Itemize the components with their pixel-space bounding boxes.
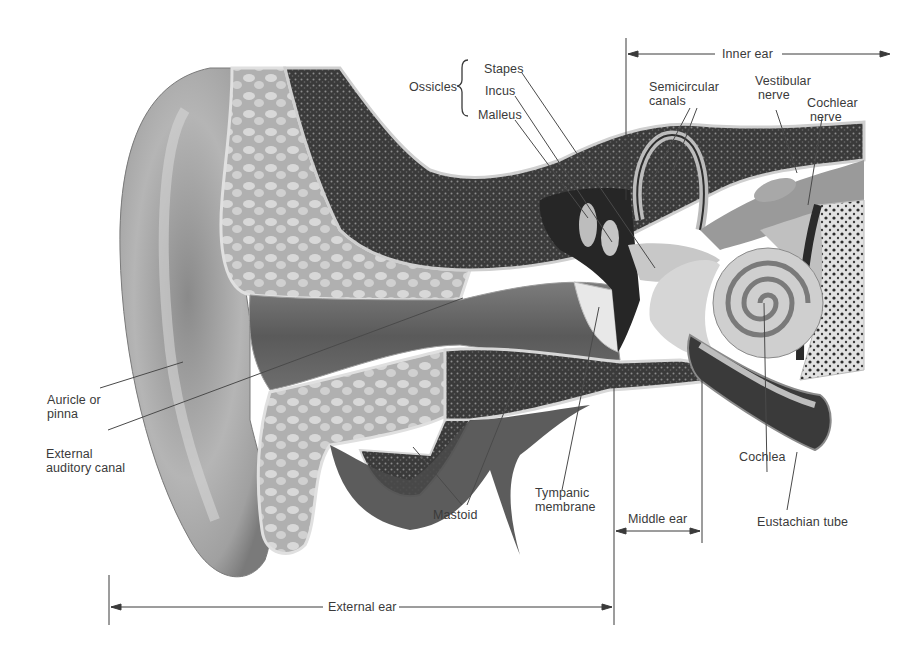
- label-cochlear-nerve: Cochlear nerve: [807, 96, 858, 124]
- label-external-auditory-canal: External auditory canal: [46, 447, 125, 475]
- label-auricle: Auricle or pinna: [47, 393, 101, 421]
- ossicles-brace: [457, 60, 468, 116]
- label-incus: Incus: [485, 84, 515, 98]
- dimension-middle-ear: Middle ear: [626, 512, 689, 526]
- label-semicircular-canals: Semicircular canals: [649, 80, 719, 108]
- label-ossicles: Ossicles: [409, 80, 457, 94]
- label-stapes: Stapes: [484, 62, 524, 76]
- label-malleus: Malleus: [478, 108, 522, 122]
- label-cochlea: Cochlea: [739, 450, 786, 464]
- incus-shape: [601, 220, 619, 256]
- dimension-inner-ear: Inner ear: [720, 47, 775, 61]
- label-eustachian-tube: Eustachian tube: [757, 515, 848, 529]
- label-vestibular-nerve: Vestibular nerve: [755, 74, 811, 102]
- label-tympanic-membrane: Tympanic membrane: [535, 486, 596, 514]
- label-mastoid: Mastoid: [433, 508, 477, 522]
- ear-anatomy-diagram: Ossicles Stapes Incus Malleus Semicircul…: [0, 0, 912, 663]
- dimension-external-ear: External ear: [326, 600, 399, 614]
